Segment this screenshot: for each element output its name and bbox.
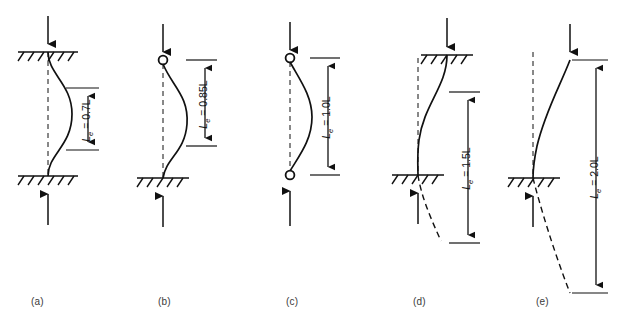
case-b-dimension-label: Le = 0.85L bbox=[197, 80, 212, 128]
case-caption-b: (b) bbox=[158, 296, 171, 307]
case-caption-a: (a) bbox=[31, 296, 44, 307]
case-a-deflected-shape bbox=[48, 52, 72, 176]
case-c-deflected-shape bbox=[290, 62, 312, 171]
case-a-dimension-label: Le = 0.7L bbox=[80, 99, 95, 141]
diagram-svg bbox=[0, 0, 619, 335]
figure-canvas: Le = 0.7L Le = 0.85L Le = 1.0L Le = 1.5L… bbox=[0, 0, 619, 335]
case-b-bottom-fixed-support bbox=[137, 178, 189, 187]
case-e-deflected-shape bbox=[533, 60, 570, 178]
case-b-deflected-shape bbox=[163, 64, 187, 178]
case-d-dimension-label: Le = 1.5L bbox=[460, 147, 475, 189]
case-c-bottom-pin-support bbox=[286, 171, 295, 180]
case-c-dimension-label: Le = 1.0L bbox=[320, 96, 335, 138]
case-caption-d: (d) bbox=[413, 296, 426, 307]
case-caption-e: (e) bbox=[536, 296, 549, 307]
case-b-top-pin-support bbox=[159, 56, 168, 65]
case-caption-c: (c) bbox=[286, 296, 298, 307]
case-a-bottom-fixed-support bbox=[18, 176, 78, 185]
case-e-dimension-label: Le = 2.0L bbox=[588, 156, 603, 198]
case-d-group bbox=[392, 18, 480, 243]
case-e-inflection-extension bbox=[533, 178, 570, 293]
case-c-top-pin-support bbox=[286, 54, 295, 63]
case-d-deflected-shape bbox=[418, 55, 447, 175]
case-d-inflection-extension bbox=[418, 175, 441, 241]
